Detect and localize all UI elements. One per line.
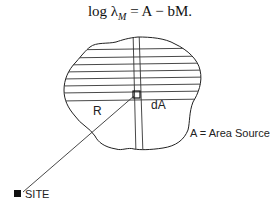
area-source-label: A = Area Source — [190, 127, 270, 139]
area-source-diagram — [0, 0, 280, 214]
radius-label: R — [93, 104, 102, 118]
site-label: SITE — [25, 188, 49, 200]
horizontal-strips — [60, 48, 210, 101]
site-marker-icon — [14, 190, 21, 197]
radius-line — [23, 96, 134, 192]
da-label: dA — [151, 98, 166, 112]
